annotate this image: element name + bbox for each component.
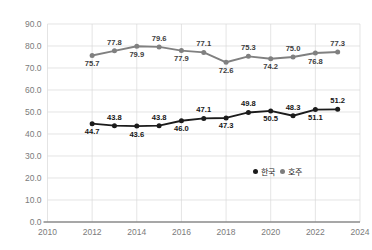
data-point-label: 76.8 bbox=[308, 57, 323, 66]
data-point-marker bbox=[246, 54, 251, 59]
legend-item-korea[interactable]: 한국 bbox=[253, 166, 275, 177]
data-point-marker bbox=[134, 124, 139, 129]
data-point-marker bbox=[224, 60, 229, 65]
data-point-label: 51.1 bbox=[308, 113, 324, 122]
data-point-label: 75.3 bbox=[241, 43, 256, 52]
data-point-label: 47.3 bbox=[219, 121, 234, 130]
y-tick-label: 80.0 bbox=[25, 41, 42, 51]
x-tick-label: 2020 bbox=[261, 227, 280, 237]
y-axis-tick-labels: 0.010.020.030.040.050.060.070.080.090.0 bbox=[25, 19, 42, 227]
data-point-marker bbox=[157, 44, 162, 49]
y-tick-label: 40.0 bbox=[25, 129, 42, 139]
data-point-marker bbox=[268, 56, 273, 61]
chart-plot-area: 0.010.020.030.040.050.060.070.080.090.0 … bbox=[0, 0, 372, 250]
data-point-label: 44.7 bbox=[85, 127, 100, 136]
data-point-label: 47.1 bbox=[196, 105, 212, 114]
x-tick-label: 2024 bbox=[351, 227, 370, 237]
data-point-marker bbox=[201, 50, 206, 55]
data-point-label: 46.0 bbox=[174, 124, 189, 133]
data-point-label: 49.8 bbox=[241, 99, 256, 108]
y-tick-label: 60.0 bbox=[25, 85, 42, 95]
data-point-label: 79.9 bbox=[129, 50, 144, 59]
y-tick-label: 90.0 bbox=[25, 19, 42, 29]
x-tick-label: 2012 bbox=[83, 227, 102, 237]
data-point-label: 75.0 bbox=[286, 44, 301, 53]
chart-legend: 한국 호주 bbox=[253, 166, 302, 177]
data-point-marker bbox=[313, 51, 318, 56]
x-tick-label: 2018 bbox=[217, 227, 236, 237]
data-point-marker bbox=[291, 55, 296, 60]
y-tick-label: 30.0 bbox=[25, 151, 42, 161]
data-point-label: 77.3 bbox=[330, 39, 345, 48]
data-point-marker bbox=[157, 123, 162, 128]
x-axis-tick-labels: 20102012201420162018202020222024 bbox=[38, 227, 370, 237]
data-point-label: 50.5 bbox=[263, 114, 279, 123]
data-point-marker bbox=[246, 110, 251, 115]
data-point-marker bbox=[291, 113, 296, 118]
x-tick-label: 2022 bbox=[306, 227, 325, 237]
x-tick-label: 2010 bbox=[38, 227, 57, 237]
y-tick-label: 50.0 bbox=[25, 107, 42, 117]
data-point-label: 79.6 bbox=[152, 34, 167, 43]
x-tick-label: 2016 bbox=[172, 227, 191, 237]
x-tick-label: 2014 bbox=[127, 227, 146, 237]
data-point-marker bbox=[134, 44, 139, 49]
data-point-marker bbox=[112, 123, 117, 128]
data-point-label: 77.9 bbox=[174, 54, 189, 63]
data-point-marker bbox=[335, 49, 340, 54]
data-point-marker bbox=[90, 53, 95, 58]
line-chart: 0.010.020.030.040.050.060.070.080.090.0 … bbox=[0, 0, 372, 250]
legend-label-korea: 한국 bbox=[261, 166, 275, 177]
legend-marker-icon-australia bbox=[280, 169, 285, 174]
data-point-label: 43.6 bbox=[129, 130, 144, 139]
data-point-label: 72.6 bbox=[219, 66, 234, 75]
data-point-marker bbox=[224, 115, 229, 120]
y-tick-label: 10.0 bbox=[25, 195, 42, 205]
y-tick-label: 0.0 bbox=[30, 217, 42, 227]
data-point-label: 77.8 bbox=[107, 38, 122, 47]
data-point-label: 51.2 bbox=[330, 96, 345, 105]
legend-label-australia: 호주 bbox=[288, 166, 302, 177]
legend-item-australia[interactable]: 호주 bbox=[280, 166, 302, 177]
data-point-label: 48.3 bbox=[286, 103, 301, 112]
data-point-marker bbox=[179, 118, 184, 123]
y-tick-label: 20.0 bbox=[25, 173, 42, 183]
data-point-marker bbox=[201, 116, 206, 121]
data-point-marker bbox=[112, 48, 117, 53]
data-point-marker bbox=[90, 121, 95, 126]
data-point-marker bbox=[179, 48, 184, 53]
data-point-label: 75.7 bbox=[85, 59, 100, 68]
data-point-label: 43.8 bbox=[107, 113, 122, 122]
data-point-label: 74.2 bbox=[263, 62, 278, 71]
data-point-marker bbox=[313, 107, 318, 112]
data-point-label: 77.1 bbox=[196, 39, 212, 48]
data-point-marker bbox=[335, 107, 340, 112]
legend-marker-icon-korea bbox=[253, 169, 258, 174]
data-point-marker bbox=[268, 108, 273, 113]
data-point-label: 43.8 bbox=[152, 113, 167, 122]
y-tick-label: 70.0 bbox=[25, 63, 42, 73]
